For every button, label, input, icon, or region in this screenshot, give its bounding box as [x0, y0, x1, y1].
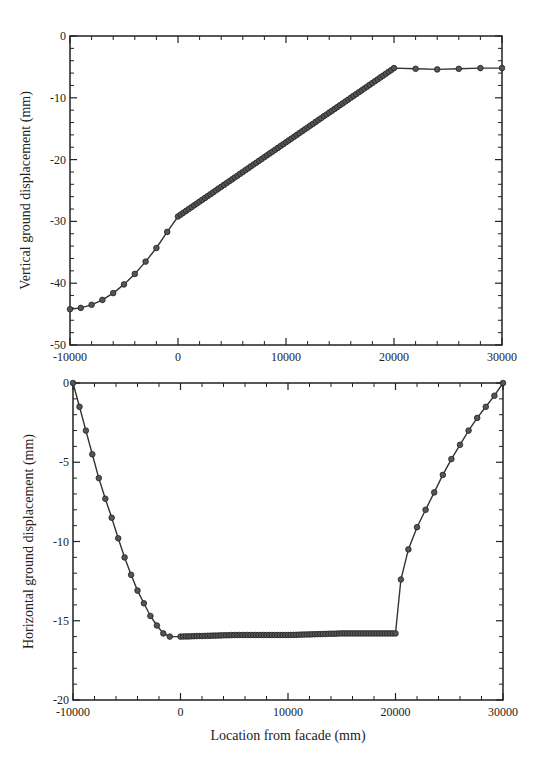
data-point-marker	[103, 496, 109, 502]
y-tick-label: 0	[60, 29, 66, 43]
data-point-marker	[121, 282, 127, 288]
axis-tick-labels: -1000001000020000300000-5-10-15-20	[53, 376, 518, 719]
y-tick-label: -40	[50, 276, 66, 290]
data-point-marker	[414, 524, 420, 530]
data-point-marker	[110, 290, 116, 296]
data-point-marker	[440, 472, 446, 478]
data-point-marker	[70, 380, 76, 386]
y-tick-label: 0	[63, 376, 69, 390]
x-tick-label: 0	[178, 705, 184, 719]
data-point-marker	[141, 601, 147, 607]
data-point-marker	[154, 623, 160, 629]
series-line	[73, 383, 503, 637]
data-point-marker	[77, 404, 83, 410]
plot-frame	[73, 383, 503, 700]
data-point-marker	[96, 475, 102, 481]
data-point-marker	[135, 588, 141, 594]
data-series	[67, 65, 505, 312]
x-tick-label: -10000	[53, 350, 87, 364]
data-point-marker	[474, 415, 480, 421]
data-point-marker	[67, 306, 73, 312]
y-tick-label: -20	[53, 693, 69, 707]
data-point-marker	[89, 302, 95, 308]
y-axis-title: Vertical ground displacement (mm)	[18, 91, 34, 290]
y-tick-label: -10	[53, 535, 69, 549]
data-point-marker	[398, 577, 404, 583]
data-point-marker	[161, 631, 167, 637]
data-point-marker	[115, 536, 121, 542]
data-point-marker	[413, 66, 419, 72]
data-point-marker	[132, 271, 138, 277]
data-series	[70, 380, 506, 639]
data-point-marker	[90, 452, 96, 458]
x-tick-label: 20000	[381, 705, 411, 719]
figure: -1000001000020000300000-10-20-30-40-50 V…	[0, 0, 545, 763]
data-point-marker	[83, 428, 89, 434]
y-tick-label: -5	[59, 455, 69, 469]
axis-ticks	[70, 36, 502, 345]
data-point-marker	[100, 297, 106, 303]
y-tick-label: -30	[50, 214, 66, 228]
data-point-marker	[431, 490, 437, 496]
data-point-marker	[457, 442, 463, 448]
data-point-marker	[391, 65, 397, 71]
data-point-marker	[492, 393, 498, 399]
x-tick-label: 0	[175, 350, 181, 364]
plot-frame	[70, 36, 502, 345]
data-point-marker	[164, 229, 170, 235]
data-point-marker	[143, 259, 149, 265]
data-point-marker	[148, 613, 154, 619]
axis-ticks	[73, 383, 503, 700]
horizontal-displacement-chart: -1000001000020000300000-5-10-15-20 Horiz…	[21, 376, 518, 744]
x-tick-label: 20000	[379, 350, 409, 364]
y-tick-label: -15	[53, 614, 69, 628]
data-point-marker	[434, 67, 440, 73]
data-point-marker	[478, 65, 484, 71]
y-tick-label: -10	[50, 91, 66, 105]
y-tick-label: -50	[50, 338, 66, 352]
x-tick-label: 30000	[488, 705, 518, 719]
y-axis-title: Horizontal ground displacement (mm)	[21, 434, 37, 649]
data-point-marker	[154, 245, 160, 251]
axis-tick-labels: -1000001000020000300000-10-20-30-40-50	[50, 29, 517, 364]
data-point-marker	[109, 515, 115, 521]
data-point-marker	[499, 65, 505, 71]
data-point-marker	[449, 456, 455, 462]
data-point-marker	[167, 634, 173, 640]
data-point-marker	[393, 631, 399, 637]
data-point-marker	[128, 572, 134, 578]
x-axis-title: Location from facade (mm)	[210, 728, 365, 744]
data-point-marker	[500, 380, 506, 386]
data-point-marker	[466, 428, 472, 434]
data-point-marker	[423, 507, 429, 513]
data-point-marker	[456, 66, 462, 72]
vertical-displacement-chart: -1000001000020000300000-10-20-30-40-50 V…	[18, 29, 517, 364]
x-tick-label: 30000	[487, 350, 517, 364]
data-point-marker	[122, 555, 128, 561]
x-tick-label: -10000	[56, 705, 90, 719]
data-point-marker	[78, 305, 84, 311]
x-tick-label: 10000	[271, 350, 301, 364]
data-point-marker	[406, 547, 412, 553]
y-tick-label: -20	[50, 153, 66, 167]
data-point-marker	[483, 404, 489, 410]
x-tick-label: 10000	[273, 705, 303, 719]
